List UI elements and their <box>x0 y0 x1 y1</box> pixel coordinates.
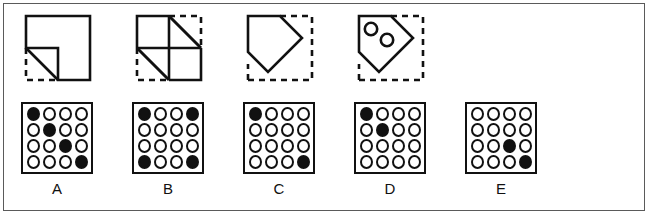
dot-r3c0 <box>360 155 373 169</box>
dot-r1c1 <box>43 123 56 137</box>
dot-r3c3 <box>186 155 199 169</box>
dot-r1c1 <box>265 123 278 137</box>
square-with-corner-notch-icon <box>18 8 108 92</box>
option-b-grid[interactable] <box>132 102 204 174</box>
dot-r1c0 <box>249 123 262 137</box>
option-e[interactable]: E <box>454 100 548 208</box>
dot-r0c0 <box>249 107 262 121</box>
dot-r0c3 <box>297 107 310 121</box>
option-d-label: D <box>343 180 437 198</box>
pentagon-arrow-with-holes-icon <box>351 8 441 92</box>
dot-r2c3 <box>519 139 532 153</box>
dot-r1c1 <box>487 123 500 137</box>
dot-r3c1 <box>43 155 56 169</box>
option-a-grid[interactable] <box>21 102 93 174</box>
dot-r3c2 <box>59 155 72 169</box>
dot-r3c2 <box>281 155 294 169</box>
option-b[interactable]: B <box>121 100 215 208</box>
stimulus-figure-1 <box>18 8 108 92</box>
dot-r2c1 <box>376 139 389 153</box>
dot-r2c1 <box>43 139 56 153</box>
dot-r2c1 <box>487 139 500 153</box>
figure-reasoning-page: A <box>0 0 649 217</box>
dot-r3c1 <box>376 155 389 169</box>
dot-r0c3 <box>186 107 199 121</box>
dot-r0c2 <box>170 107 183 121</box>
dot-r1c0 <box>360 123 373 137</box>
dot-r2c3 <box>408 139 421 153</box>
dot-r3c3 <box>519 155 532 169</box>
option-b-label: B <box>121 180 215 198</box>
dot-r2c0 <box>471 139 484 153</box>
dot-r2c1 <box>265 139 278 153</box>
dot-r2c0 <box>27 139 40 153</box>
dot-r3c1 <box>154 155 167 169</box>
stimulus-figure-4 <box>351 8 441 92</box>
dot-r3c3 <box>297 155 310 169</box>
hole-1-icon <box>365 23 377 35</box>
dot-r1c1 <box>154 123 167 137</box>
option-c-label: C <box>232 180 326 198</box>
dot-r1c0 <box>27 123 40 137</box>
dot-r2c0 <box>360 139 373 153</box>
dot-r2c2 <box>59 139 72 153</box>
option-c[interactable]: C <box>232 100 326 208</box>
answer-options-row: A <box>10 100 635 208</box>
dot-r1c2 <box>503 123 516 137</box>
option-d[interactable]: D <box>343 100 437 208</box>
dot-r2c3 <box>186 139 199 153</box>
dot-r0c2 <box>59 107 72 121</box>
dot-r0c2 <box>503 107 516 121</box>
dot-r3c2 <box>392 155 405 169</box>
option-e-grid[interactable] <box>465 102 537 174</box>
dot-r0c0 <box>27 107 40 121</box>
dot-r1c2 <box>170 123 183 137</box>
dot-r2c1 <box>154 139 167 153</box>
dot-r1c2 <box>281 123 294 137</box>
dot-r2c3 <box>297 139 310 153</box>
dot-r2c2 <box>392 139 405 153</box>
dot-r1c0 <box>471 123 484 137</box>
dot-r0c1 <box>376 107 389 121</box>
square-quartered-diagonals-icon <box>129 8 219 92</box>
dot-r0c2 <box>392 107 405 121</box>
dot-r0c1 <box>154 107 167 121</box>
dot-r0c1 <box>265 107 278 121</box>
dot-r3c3 <box>408 155 421 169</box>
dot-r0c0 <box>360 107 373 121</box>
dot-r3c1 <box>487 155 500 169</box>
dot-r2c3 <box>75 139 88 153</box>
dot-r3c3 <box>75 155 88 169</box>
dot-r3c2 <box>170 155 183 169</box>
dot-r3c1 <box>265 155 278 169</box>
option-c-grid[interactable] <box>243 102 315 174</box>
option-a[interactable]: A <box>10 100 104 208</box>
dot-r1c2 <box>392 123 405 137</box>
dot-r2c2 <box>281 139 294 153</box>
dot-r1c3 <box>408 123 421 137</box>
dot-r1c3 <box>297 123 310 137</box>
dot-r1c3 <box>75 123 88 137</box>
option-d-grid[interactable] <box>354 102 426 174</box>
hole-2-icon <box>381 34 393 46</box>
stimulus-row <box>10 6 635 94</box>
option-e-label: E <box>454 180 548 198</box>
dot-r0c0 <box>138 107 151 121</box>
dot-r3c2 <box>503 155 516 169</box>
dot-r1c2 <box>59 123 72 137</box>
dot-r2c2 <box>503 139 516 153</box>
dot-r2c2 <box>170 139 183 153</box>
pentagon-arrow-folded-icon <box>240 8 330 92</box>
dot-r1c0 <box>138 123 151 137</box>
dot-r3c0 <box>27 155 40 169</box>
dot-r3c0 <box>138 155 151 169</box>
dot-r0c3 <box>519 107 532 121</box>
dot-r0c0 <box>471 107 484 121</box>
dot-r0c2 <box>281 107 294 121</box>
dot-r0c1 <box>43 107 56 121</box>
stimulus-figure-2 <box>129 8 219 92</box>
dot-r1c3 <box>186 123 199 137</box>
dot-r0c1 <box>487 107 500 121</box>
dot-r1c1 <box>376 123 389 137</box>
dot-r3c0 <box>471 155 484 169</box>
